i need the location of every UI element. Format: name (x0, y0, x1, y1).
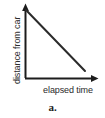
data-line-decreasing (26, 10, 85, 71)
figure-panel: distance from car elapsed time a. (0, 0, 105, 118)
x-axis-arrowhead (91, 75, 99, 82)
figure-caption: a. (0, 101, 105, 113)
y-axis-label: distance from car (12, 0, 24, 84)
x-axis (25, 75, 99, 82)
x-axis-label: elapsed time (34, 85, 102, 95)
